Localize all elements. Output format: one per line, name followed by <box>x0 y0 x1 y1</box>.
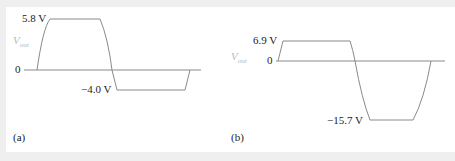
waveform-plots <box>0 0 455 161</box>
panel-b-zero-label: 0 <box>267 55 273 66</box>
panel-a-vout-label: Vout <box>13 35 29 49</box>
panel-b-waveform <box>278 41 431 120</box>
panel-b-caption: (b) <box>231 132 244 143</box>
panel-a-zero-label: 0 <box>15 64 21 75</box>
panel-b-min-label: −15.7 V <box>327 115 363 126</box>
panel-b-vout-label: Vout <box>231 51 247 65</box>
panel-a-plot <box>24 19 201 90</box>
panel-b-max-label: 6.9 V <box>253 35 277 46</box>
panel-b-plot <box>276 41 445 120</box>
panel-a-caption: (a) <box>13 132 25 143</box>
panel-a-min-label: −4.0 V <box>81 84 111 95</box>
panel-a-max-label: 5.8 V <box>22 13 46 24</box>
panel-a-waveform <box>37 19 190 90</box>
